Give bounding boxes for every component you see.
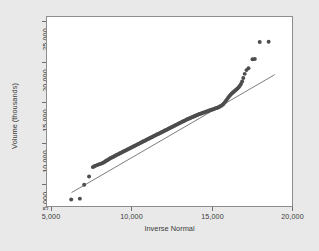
x-axis-tick-mark — [292, 207, 293, 211]
data-point — [82, 183, 86, 187]
data-point — [246, 66, 250, 70]
data-point — [258, 40, 262, 44]
x-axis-title: Inverse Normal — [46, 224, 293, 233]
reference-line — [72, 75, 275, 193]
data-point — [241, 76, 245, 80]
data-point — [78, 197, 82, 201]
data-points-group — [69, 40, 270, 202]
x-axis-tick-mark — [51, 207, 52, 211]
data-point — [240, 79, 244, 83]
y-axis-title: Volume (thousands) — [10, 56, 19, 176]
data-point — [69, 197, 73, 201]
x-axis-tick-mark — [212, 207, 213, 211]
data-point — [267, 40, 271, 44]
data-point — [253, 57, 257, 61]
chart-figure: Volume (thousands) 25,000 20,000 15,000 … — [0, 0, 319, 251]
plot-canvas — [47, 17, 292, 206]
x-tick-label-15000: 15,000 — [193, 212, 232, 221]
plot-area — [46, 16, 293, 207]
data-point — [243, 72, 247, 76]
x-axis-tick-mark — [131, 207, 132, 211]
data-point — [87, 175, 91, 179]
x-tick-label-10000: 10,000 — [112, 212, 151, 221]
x-tick-label-5000: 5,000 — [33, 212, 69, 221]
reference-line-group — [72, 75, 275, 193]
x-tick-label-20000: 20,000 — [273, 212, 312, 221]
